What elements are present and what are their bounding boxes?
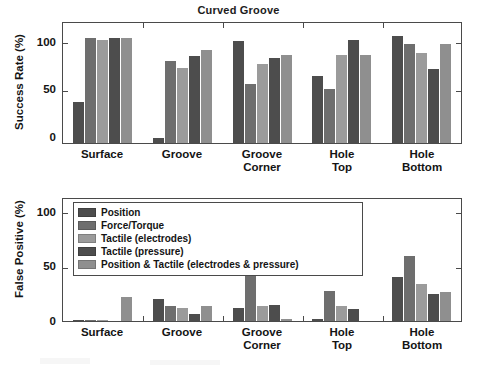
y-tick-label-0-top: 0 <box>28 131 56 143</box>
bar <box>121 38 132 143</box>
panel-false-positive: False Positive (%) 100 50 0 PositionForc… <box>0 185 477 376</box>
panel-success-rate: Curved Groove Success Rate (%) 100 50 0 … <box>0 0 477 185</box>
x-category-line: Surface <box>62 326 142 339</box>
y-axis-label-success: Success Rate (%) <box>13 27 25 137</box>
legend-label: Position <box>101 207 140 218</box>
bar <box>73 102 84 143</box>
bar <box>233 308 244 321</box>
x-category-label-hole-top: Hole Top <box>302 148 382 174</box>
chart-title: Curved Groove <box>0 4 477 16</box>
x-category-line: Top <box>302 161 382 174</box>
legend-label: Tactile (electrodes) <box>101 233 191 244</box>
x-category-line: Bottom <box>382 161 462 174</box>
bar <box>165 306 176 321</box>
bar <box>324 89 335 143</box>
x-category-line: Hole <box>302 148 382 161</box>
legend-label: Position & Tactile (electrodes & pressur… <box>101 259 299 270</box>
bar <box>404 256 415 321</box>
y-axis-label-false-positive: False Positive (%) <box>13 194 25 304</box>
legend-swatch <box>78 234 96 243</box>
bar <box>85 38 96 143</box>
x-category-line: Corner <box>222 161 302 174</box>
legend-item: Tactile (electrodes) <box>78 232 357 244</box>
bar <box>336 55 347 143</box>
bar <box>73 320 84 321</box>
x-category-line: Groove <box>222 326 302 339</box>
x-category-label-groove: Groove <box>142 148 222 161</box>
bar <box>348 309 359 321</box>
bar <box>201 50 212 143</box>
legend-swatch <box>78 221 96 230</box>
bar <box>201 306 212 321</box>
bar <box>153 299 164 321</box>
bar <box>165 61 176 144</box>
bar <box>324 291 335 322</box>
bar <box>109 38 120 143</box>
bar <box>121 297 132 321</box>
bar <box>392 36 403 143</box>
bar <box>392 277 403 321</box>
legend-item: Tactile (pressure) <box>78 245 357 257</box>
bar <box>257 306 268 321</box>
x-category-line: Corner <box>222 339 302 352</box>
x-category-label-hole-top: Hole Top <box>302 326 382 352</box>
legend-swatch <box>78 208 96 217</box>
plot-area-false-positive: PositionForce/TorqueTactile (electrodes)… <box>62 198 462 322</box>
legend-item: Force/Torque <box>78 219 357 231</box>
x-category-label-hole-bottom: Hole Bottom <box>382 326 462 352</box>
y-tick-label-0-bottom: 0 <box>28 315 56 327</box>
x-category-line: Groove <box>142 326 222 339</box>
y-tick-label-100-top: 100 <box>28 36 56 48</box>
bar <box>257 64 268 143</box>
bar <box>233 41 244 143</box>
bar <box>97 40 108 143</box>
bar <box>428 294 439 321</box>
plot-area-success-rate <box>62 22 462 144</box>
bar <box>440 44 451 143</box>
legend-label: Tactile (pressure) <box>101 246 184 257</box>
bar <box>97 320 108 321</box>
bar <box>177 308 188 321</box>
x-category-line: Surface <box>62 148 142 161</box>
bar <box>189 314 200 321</box>
bar <box>153 138 164 143</box>
x-category-label-groove: Groove <box>142 326 222 339</box>
legend-rows: PositionForce/TorqueTactile (electrodes)… <box>78 206 357 270</box>
legend-label: Force/Torque <box>101 220 164 231</box>
bar <box>85 320 96 321</box>
bar <box>416 284 427 321</box>
y-tick-label-50-top: 50 <box>28 83 56 95</box>
x-category-line: Bottom <box>382 339 462 352</box>
x-category-line: Hole <box>302 326 382 339</box>
bar <box>312 319 323 321</box>
bar <box>281 55 292 143</box>
x-category-label-surface: Surface <box>62 148 142 161</box>
bar <box>269 305 280 321</box>
x-category-label-groove-corner: Groove Corner <box>222 326 302 352</box>
legend-item: Position <box>78 206 357 218</box>
bar <box>269 58 280 143</box>
bar <box>189 56 200 143</box>
bar <box>281 319 292 321</box>
x-category-line: Groove <box>222 148 302 161</box>
bar <box>245 84 256 143</box>
legend-item: Position & Tactile (electrodes & pressur… <box>78 258 357 270</box>
bars-container-success-rate <box>63 23 461 143</box>
bar <box>416 53 427 143</box>
legend-swatch <box>78 260 96 269</box>
x-category-line: Hole <box>382 148 462 161</box>
x-category-label-groove-corner: Groove Corner <box>222 148 302 174</box>
bar <box>440 292 451 321</box>
bar <box>312 76 323 144</box>
legend: PositionForce/TorqueTactile (electrodes)… <box>73 202 363 276</box>
x-category-label-surface: Surface <box>62 326 142 339</box>
bar <box>348 40 359 143</box>
bar <box>177 68 188 143</box>
x-category-line: Groove <box>142 148 222 161</box>
bar <box>404 44 415 143</box>
bar <box>360 55 371 143</box>
y-tick-label-50-bottom: 50 <box>28 260 56 272</box>
bar <box>428 69 439 143</box>
figure-root: Curved Groove Success Rate (%) 100 50 0 … <box>0 0 477 376</box>
y-tick-label-100-bottom: 100 <box>28 206 56 218</box>
